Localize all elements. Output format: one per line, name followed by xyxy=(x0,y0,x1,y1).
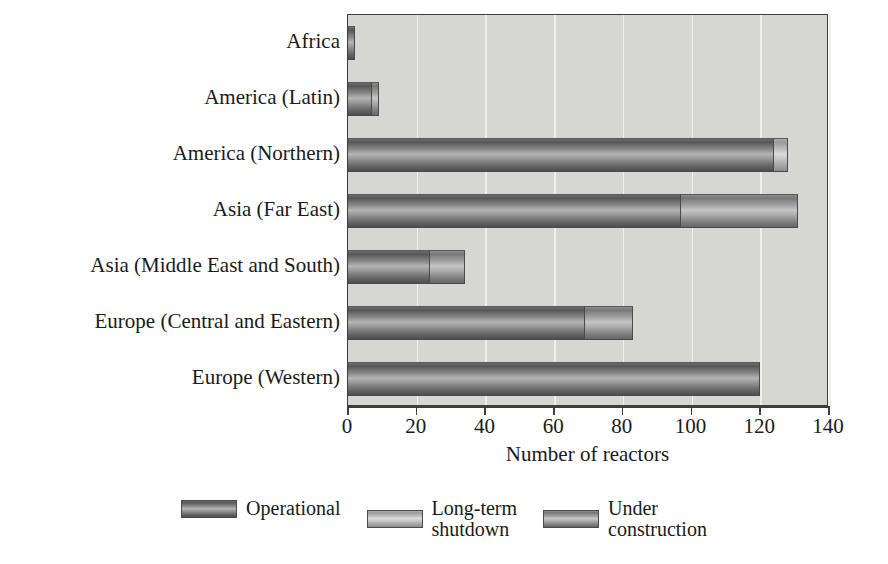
x-tick-label: 100 xyxy=(656,416,726,437)
plot-area xyxy=(347,14,828,406)
category-label: Africa xyxy=(0,31,340,52)
legend-item: Operational xyxy=(181,498,340,519)
x-tick-label: 120 xyxy=(724,416,794,437)
bars-layer xyxy=(348,15,827,405)
legend-item: Long-term shutdown xyxy=(367,498,518,540)
legend-item: Under construction xyxy=(543,498,707,540)
bar-segment xyxy=(348,26,355,60)
bar-group xyxy=(348,138,788,172)
legend-label: Under construction xyxy=(608,498,707,540)
category-label: Europe (Western) xyxy=(0,367,340,388)
x-axis-title: Number of reactors xyxy=(347,444,828,465)
bar-segment xyxy=(430,250,464,284)
category-label: America (Latin) xyxy=(0,87,340,108)
bar-group xyxy=(348,250,465,284)
x-tick-label: 60 xyxy=(518,416,588,437)
bar-segment xyxy=(348,306,585,340)
x-tick-label: 80 xyxy=(587,416,657,437)
bar-segment xyxy=(774,138,788,172)
category-label: Asia (Middle East and South) xyxy=(0,255,340,276)
x-tick-label: 20 xyxy=(381,416,451,437)
x-tick-label: 40 xyxy=(449,416,519,437)
category-label: America (Northern) xyxy=(0,143,340,164)
bar-segment xyxy=(348,362,760,396)
bar-segment xyxy=(585,306,633,340)
legend-label: Long-term shutdown xyxy=(432,498,518,540)
x-tick-label: 140 xyxy=(793,416,863,437)
legend-label: Operational xyxy=(246,498,340,519)
legend-swatch-icon xyxy=(543,510,599,528)
bar-segment xyxy=(372,82,379,116)
legend-swatch-icon xyxy=(181,500,237,518)
bar-segment xyxy=(348,138,774,172)
legend-swatch-icon xyxy=(367,510,423,528)
chart-legend: OperationalLong-term shutdownUnder const… xyxy=(0,498,888,540)
bar-segment xyxy=(348,194,681,228)
bar-group xyxy=(348,194,798,228)
bar-segment xyxy=(348,250,430,284)
category-label: Europe (Central and Eastern) xyxy=(0,311,340,332)
bar-group xyxy=(348,82,379,116)
bar-group xyxy=(348,306,633,340)
gridline xyxy=(829,15,831,405)
bar-segment xyxy=(681,194,798,228)
bar-group xyxy=(348,26,355,60)
x-tick-label: 0 xyxy=(312,416,382,437)
chart-figure: AfricaAmerica (Latin)America (Northern)A… xyxy=(0,0,888,564)
x-axis-line xyxy=(347,406,828,408)
category-label: Asia (Far East) xyxy=(0,199,340,220)
bar-group xyxy=(348,362,760,396)
bar-segment xyxy=(348,82,372,116)
